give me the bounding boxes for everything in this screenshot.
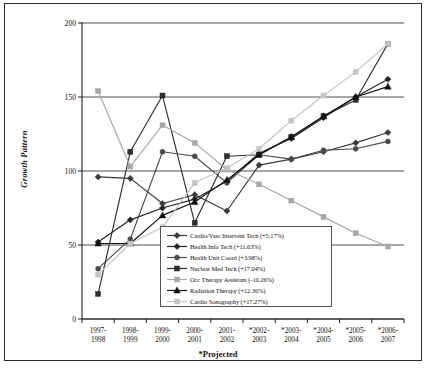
data-point-circle <box>385 139 390 144</box>
data-point-square <box>321 214 326 219</box>
legend-item: Occ Therapy Assistant (-10.26%) <box>164 274 329 285</box>
legend-item: Health Info Tech (+11.63%) <box>164 241 329 252</box>
data-point-circle <box>192 154 197 159</box>
data-point-square <box>224 154 229 159</box>
y-tick-labels: 050100150200 <box>65 19 77 324</box>
chart-screenshot: 050100150200 1997-19981998-19991999-2000… <box>0 0 426 368</box>
y-axis <box>78 22 82 319</box>
legend-item-label: Cardio/Vasc Intervent Tech (+5.17%) <box>190 230 284 241</box>
y-tick-label: 0 <box>72 315 76 324</box>
data-point-square <box>321 93 326 98</box>
legend-item-label: Occ Therapy Assistant (-10.26%) <box>190 274 274 285</box>
data-point-square <box>96 291 101 296</box>
x-tick-label: 2001- <box>219 327 236 335</box>
y-tick-label: 150 <box>65 93 77 102</box>
chart-legend: Cardio/Vasc Intervent Tech (+5.17%)Healt… <box>160 226 332 307</box>
legend-item-label: Health Info Tech (+11.63%) <box>190 241 261 252</box>
x-tick-label: 1998 <box>91 336 106 344</box>
data-point-square <box>128 241 133 246</box>
data-point-square <box>96 89 101 94</box>
data-point-square <box>175 299 180 304</box>
data-point-square <box>160 93 165 98</box>
y-tick-label: 200 <box>65 19 77 28</box>
legend-marker-diamond-icon <box>164 230 190 241</box>
data-point-square <box>128 164 133 169</box>
data-point-square <box>224 166 229 171</box>
legend-marker-square-icon <box>164 296 190 307</box>
data-point-square <box>96 272 101 277</box>
data-point-circle <box>160 149 165 154</box>
x-tick-label: 2000 <box>155 336 170 344</box>
legend-item-label: Nuclear Med Tech (+17.04%) <box>190 263 265 274</box>
x-tick-label: 1997- <box>90 327 107 335</box>
data-point-square <box>175 266 180 271</box>
y-tick-label: 50 <box>68 241 76 250</box>
legend-item: Cardio/Vasc Intervent Tech (+5.17%) <box>164 230 329 241</box>
data-point-square <box>257 146 262 151</box>
legend-item: Radiation Therapy (+12.36%) <box>164 285 329 296</box>
legend-item-label: Radiation Therapy (+12.36%) <box>190 285 265 296</box>
x-tick-label: 2000- <box>186 327 203 335</box>
data-point-square <box>385 41 390 46</box>
data-point-square <box>128 149 133 154</box>
chart-frame: 050100150200 1997-19981998-19991999-2000… <box>4 3 422 361</box>
data-point-diamond <box>174 243 180 249</box>
x-tick-label: *2004- <box>313 327 334 335</box>
data-point-circle <box>353 146 358 151</box>
x-tick-label: *2006- <box>378 327 399 335</box>
data-point-square <box>353 69 358 74</box>
x-tick-label: 2007 <box>381 336 396 344</box>
y-tick-label: 100 <box>65 167 77 176</box>
x-tick-label: *2005- <box>346 327 367 335</box>
x-tick-label: *2002- <box>249 327 270 335</box>
data-point-square <box>257 182 262 187</box>
growth-pattern-line-chart: 050100150200 1997-19981998-19991999-2000… <box>5 4 423 362</box>
x-tick-label: 2005 <box>316 336 331 344</box>
data-point-circle <box>289 157 294 162</box>
x-axis-note: *Projected <box>5 349 426 359</box>
x-axis <box>82 319 404 323</box>
data-point-circle <box>96 266 101 271</box>
legend-marker-circle-icon <box>164 252 190 263</box>
x-tick-labels: 1997-19981998-19991999-20002000-20012001… <box>90 327 399 344</box>
x-tick-label: 2002 <box>220 336 235 344</box>
data-point-square <box>385 244 390 249</box>
legend-marker-triangle-icon <box>164 285 190 296</box>
x-tick-label: 1998- <box>122 327 139 335</box>
data-point-square <box>192 140 197 145</box>
x-tick-label: 2006 <box>349 336 364 344</box>
x-tick-label: 1999 <box>123 336 138 344</box>
data-point-square <box>289 118 294 123</box>
data-point-square <box>175 277 180 282</box>
data-point-circle <box>321 148 326 153</box>
legend-marker-square-icon <box>164 263 190 274</box>
legend-item: Cardio Sonography (+17.27%) <box>164 296 329 307</box>
data-point-square <box>192 220 197 225</box>
data-point-square <box>353 231 358 236</box>
data-point-square <box>160 123 165 128</box>
y-axis-title: Growth Pattern <box>19 104 29 214</box>
legend-marker-square-icon <box>164 274 190 285</box>
data-point-diamond <box>174 232 180 238</box>
x-tick-label: 2004 <box>284 336 299 344</box>
data-point-circle <box>175 255 180 260</box>
legend-item-label: Cardio Sonography (+17.27%) <box>190 296 268 307</box>
legend-item: Health Unit Coord (+3.98%) <box>164 252 329 263</box>
x-tick-label: *2003- <box>281 327 302 335</box>
data-point-square <box>289 198 294 203</box>
legend-item-label: Health Unit Coord (+3.98%) <box>190 252 262 263</box>
x-tick-label: 2001 <box>188 336 203 344</box>
x-tick-label: 1999- <box>154 327 171 335</box>
x-tick-label: 2003 <box>252 336 267 344</box>
legend-item: Nuclear Med Tech (+17.04%) <box>164 263 329 274</box>
legend-marker-diamond-icon <box>164 241 190 252</box>
data-point-square <box>192 180 197 185</box>
